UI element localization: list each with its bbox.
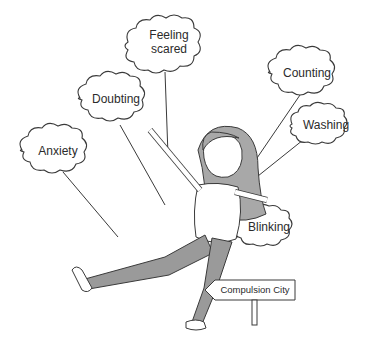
- cloud-label-anxiety: Anxiety: [30, 144, 86, 158]
- cloud-label-doubting: Doubting: [88, 92, 144, 106]
- cloud-label-washing: Washing: [298, 118, 354, 132]
- cloud-label-feeling-scared-line1: Feeling: [144, 28, 194, 42]
- cloud-label-blinking: Blinking: [242, 220, 296, 234]
- cloud-label-feeling-scared-line2: scared: [144, 42, 194, 56]
- cloud-label-counting: Counting: [278, 66, 336, 80]
- puppet-illustration: Feeling scared Doubting Anxiety Counting…: [0, 0, 377, 350]
- sign-label: Compulsion City: [214, 284, 296, 295]
